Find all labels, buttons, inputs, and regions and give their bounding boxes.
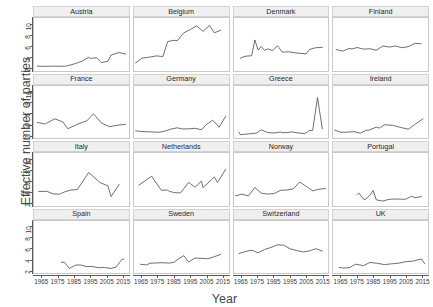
y-tick-label: 6: [26, 46, 32, 50]
facet-panel-belgium: Belgium: [133, 6, 230, 72]
y-tick-label: 8: [26, 102, 32, 106]
series-line: [140, 254, 220, 265]
y-tick-label: 6: [26, 181, 32, 185]
y-tick-label: 2: [26, 203, 32, 207]
x-tick-label: 1995: [383, 279, 397, 285]
x-axis-line: [332, 275, 429, 276]
series-line: [39, 173, 119, 197]
y-tick-label: 8: [26, 237, 32, 241]
y-axis-row-0: 246810: [16, 17, 33, 72]
plot-area: [233, 85, 330, 140]
series-line: [336, 43, 421, 51]
facet-title: France: [70, 75, 92, 82]
x-tick-label: 2015: [316, 279, 330, 285]
facet-strip-label: UK: [332, 209, 429, 220]
plot-area: [133, 220, 230, 275]
facet-title: Spain: [72, 210, 90, 217]
x-tick-label: 1995: [183, 279, 197, 285]
series-line: [135, 25, 220, 62]
facet-title: Netherlands: [162, 143, 201, 150]
x-tick-label: 1985: [266, 279, 280, 285]
facet-panel-finland: Finland: [332, 6, 429, 72]
y-tick-label: 4: [26, 125, 32, 129]
x-tick-label: 1975: [350, 279, 364, 285]
series-line: [37, 52, 125, 66]
x-axis-line: [133, 275, 230, 276]
y-tick-label: 4: [26, 260, 32, 264]
x-axis-col-3: 196519751985199520052015: [332, 275, 429, 289]
facet-panel-netherlands: Netherlands: [133, 141, 230, 207]
x-tick-label: 2005: [200, 279, 214, 285]
x-tick-label: 2005: [299, 279, 313, 285]
x-tick-label: 1975: [150, 279, 164, 285]
facet-strip-label: Portugal: [332, 141, 429, 152]
series-line: [135, 116, 225, 132]
facet-panel-ireland: Ireland: [332, 74, 429, 140]
series-line: [340, 258, 425, 267]
x-tick-label: 1965: [34, 279, 48, 285]
x-tick-label: 1965: [333, 279, 347, 285]
x-axis-line: [233, 275, 330, 276]
facet-strip-label: Denmark: [233, 6, 330, 17]
x-axis-col-2: 196519751985199520052015: [233, 275, 330, 289]
x-tick-label: 2015: [116, 279, 130, 285]
facet-strip-label: Austria: [33, 6, 130, 17]
y-tick-label: 6: [26, 113, 32, 117]
y-tick-label: 4: [26, 192, 32, 196]
x-axis-col-0: 196519751985199520052015: [33, 275, 130, 289]
y-tick-label: 8: [26, 35, 32, 39]
x-tick-label: 2005: [399, 279, 413, 285]
series-line: [139, 170, 226, 193]
plot-area: [33, 152, 130, 207]
y-axis-row-3: 246810: [16, 220, 33, 275]
series-line: [37, 113, 125, 128]
facet-title: Belgium: [168, 8, 194, 15]
x-tick-label: 2015: [216, 279, 230, 285]
series-line: [335, 118, 423, 132]
facet-grid: AustriaBelgiumDenmarkFinlandFranceGerman…: [33, 6, 429, 274]
x-tick-label: 1995: [283, 279, 297, 285]
x-tick-label: 1965: [234, 279, 248, 285]
y-tick-label: 6: [26, 248, 32, 252]
y-axis-line: [32, 17, 33, 72]
series-line: [235, 182, 325, 196]
plot-area: [233, 152, 330, 207]
facet-title: Sweden: [168, 210, 194, 217]
facet-panel-portugal: Portugal: [332, 141, 429, 207]
x-tick-label: 1975: [250, 279, 264, 285]
facet-title: Austria: [70, 8, 92, 15]
y-tick-label: 10: [26, 159, 32, 166]
chart-root: Effective number of parties Year Austria…: [0, 0, 433, 307]
x-tick-label: 1975: [51, 279, 65, 285]
series-line: [238, 244, 322, 253]
facet-title: Germany: [166, 75, 196, 82]
y-tick-label: 10: [26, 226, 32, 233]
facet-title: Finland: [369, 8, 393, 15]
facet-strip-label: Sweden: [133, 209, 230, 220]
y-axis-row-2: 246810: [16, 152, 33, 207]
y-tick-label: 2: [26, 68, 32, 72]
x-tick-label: 1985: [167, 279, 181, 285]
facet-title: Greece: [269, 75, 293, 82]
facet-strip-label: France: [33, 74, 130, 85]
facet-title: Denmark: [266, 8, 295, 15]
plot-area: [332, 85, 429, 140]
y-tick-label: 10: [26, 24, 32, 31]
y-tick-label: 2: [26, 136, 32, 140]
y-axis-line: [32, 152, 33, 207]
x-axis-line: [33, 275, 130, 276]
plot-area: [33, 17, 130, 72]
plot-area: [233, 220, 330, 275]
series-line: [240, 40, 322, 58]
facet-strip-label: Finland: [332, 6, 429, 17]
y-tick-label: 10: [26, 91, 32, 98]
facet-panel-switzerland: Switzerland: [233, 209, 330, 275]
facet-panel-austria: Austria: [33, 6, 130, 72]
facet-strip-label: Belgium: [133, 6, 230, 17]
facet-title: Italy: [75, 143, 88, 150]
facet-panel-sweden: Sweden: [133, 209, 230, 275]
facet-panel-france: France: [33, 74, 130, 140]
facet-strip-label: Greece: [233, 74, 330, 85]
x-axis-col-1: 196519751985199520052015: [133, 275, 230, 289]
plot-area: [133, 152, 230, 207]
